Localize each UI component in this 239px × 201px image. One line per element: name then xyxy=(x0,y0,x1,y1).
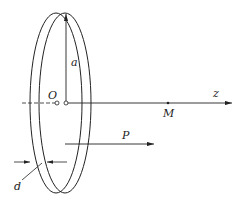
label-a: a xyxy=(71,56,78,69)
label-d: d xyxy=(14,180,21,193)
label-p: P xyxy=(121,129,130,142)
label-m: M xyxy=(162,107,175,120)
point-m xyxy=(167,102,170,105)
label-z: z xyxy=(212,87,219,100)
label-o: O xyxy=(48,89,57,102)
origin-point-front xyxy=(64,101,68,105)
disk-diagram: a O z M P d xyxy=(0,0,239,201)
